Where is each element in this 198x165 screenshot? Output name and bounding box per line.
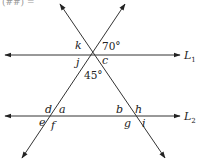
angle-g: g <box>124 117 131 130</box>
clipped-header-text: (##) = <box>2 0 35 7</box>
geometry-diagram: (##) = L1 L2 k 70° j c 45° d a e f b h g… <box>0 0 198 165</box>
label-l1: L1 <box>183 49 196 64</box>
angle-b: b <box>116 103 123 116</box>
angle-k: k <box>75 39 82 52</box>
transversal-falling <box>60 4 165 158</box>
angle-h: h <box>135 103 142 116</box>
label-l2: L2 <box>183 110 196 125</box>
transversal-rising <box>22 4 125 158</box>
angle-i: i <box>142 117 146 130</box>
angle-j: j <box>73 56 80 69</box>
angle-d: d <box>45 103 52 116</box>
angle-45-degrees: 45° <box>84 69 103 81</box>
angle-f: f <box>50 119 57 132</box>
angle-70-degrees: 70° <box>102 40 121 52</box>
angle-c: c <box>102 54 108 67</box>
angle-a: a <box>59 103 66 116</box>
angle-e: e <box>39 116 46 129</box>
